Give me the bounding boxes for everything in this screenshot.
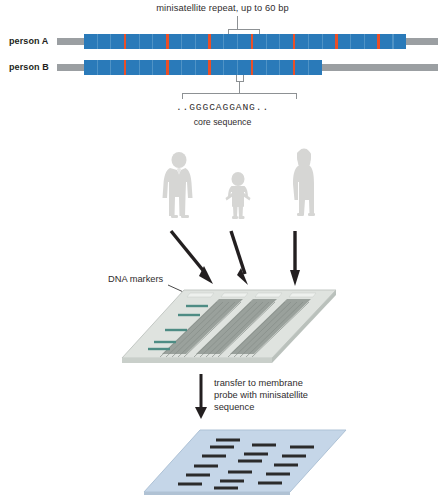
repeat-unit — [295, 60, 308, 75]
repeat-unit — [280, 60, 293, 75]
repeat-unit — [182, 34, 195, 49]
flank-right — [406, 38, 438, 45]
repeat-unit — [126, 34, 139, 49]
arrow-from-woman-to-gel — [286, 228, 308, 288]
repeat-unit — [267, 60, 280, 75]
core-bracket-stem — [239, 81, 240, 93]
repeat-unit — [253, 34, 266, 49]
repeat-unit — [84, 60, 97, 75]
repeat-bracket-bar — [228, 29, 260, 30]
repeat-unit — [338, 34, 351, 49]
repeat-unit — [394, 34, 407, 49]
repeat-unit — [196, 60, 209, 75]
repeat-bracket-stem — [237, 16, 238, 30]
minisatellite-repeat-caption: minisatellite repeat, up to 60 bp — [0, 3, 445, 13]
repeat-unit — [224, 34, 237, 49]
repeat-unit — [126, 60, 139, 75]
repeat-array-b — [84, 60, 322, 75]
repeat-unit — [169, 34, 182, 49]
repeat-unit — [280, 34, 293, 49]
flank-right — [322, 64, 439, 71]
person-b-strand — [57, 60, 438, 75]
repeat-unit — [98, 60, 111, 75]
core-sequence-label: core sequence — [0, 117, 445, 127]
repeat-unit — [238, 60, 251, 75]
person-figure-child — [222, 172, 254, 220]
repeat-unit — [309, 34, 322, 49]
electrophoresis-gel — [120, 288, 340, 366]
flank-left — [57, 64, 84, 71]
core-sequence-text: ..GGGCAGGANG.. — [0, 102, 445, 113]
repeat-unit — [309, 60, 322, 75]
person-a-strand — [57, 34, 438, 49]
repeat-unit — [169, 60, 182, 75]
repeat-unit — [224, 60, 237, 75]
person-figure-adult-woman — [285, 148, 325, 220]
repeat-unit — [267, 34, 280, 49]
repeat-unit — [211, 60, 224, 75]
repeat-unit — [211, 34, 224, 49]
repeat-unit — [365, 34, 378, 49]
dna-fingerprinting-figure: minisatellite repeat, up to 60 bp person… — [0, 0, 445, 495]
repeat-unit — [140, 60, 153, 75]
arrow-from-child-to-gel — [228, 228, 258, 288]
repeat-unit — [351, 34, 364, 49]
probed-membrane — [140, 428, 350, 495]
repeat-unit — [295, 34, 308, 49]
core-bracket-tick-left — [182, 93, 183, 99]
core-bracket-bar — [182, 93, 297, 94]
repeat-unit — [111, 34, 124, 49]
transfer-instruction-text: transfer to membrane probe with minisate… — [214, 377, 404, 414]
repeat-unit — [323, 34, 336, 49]
core-bracket-tick-right — [296, 93, 297, 99]
repeat-unit — [182, 60, 195, 75]
repeat-unit — [196, 34, 209, 49]
repeat-unit — [111, 60, 124, 75]
transfer-arrow — [192, 374, 210, 420]
arrow-from-man-to-gel — [168, 228, 218, 288]
person-figure-adult-man — [157, 152, 203, 220]
repeat-unit — [253, 60, 266, 75]
repeat-unit — [84, 34, 97, 49]
repeat-unit — [153, 34, 166, 49]
dna-markers-label: DNA markers — [108, 274, 163, 284]
repeat-unit — [98, 34, 111, 49]
repeat-array-a — [84, 34, 406, 49]
repeat-unit — [380, 34, 393, 49]
repeat-unit — [140, 34, 153, 49]
repeat-unit — [153, 60, 166, 75]
flank-left — [57, 38, 84, 45]
repeat-unit — [238, 34, 251, 49]
core-marker-bar — [236, 81, 244, 82]
